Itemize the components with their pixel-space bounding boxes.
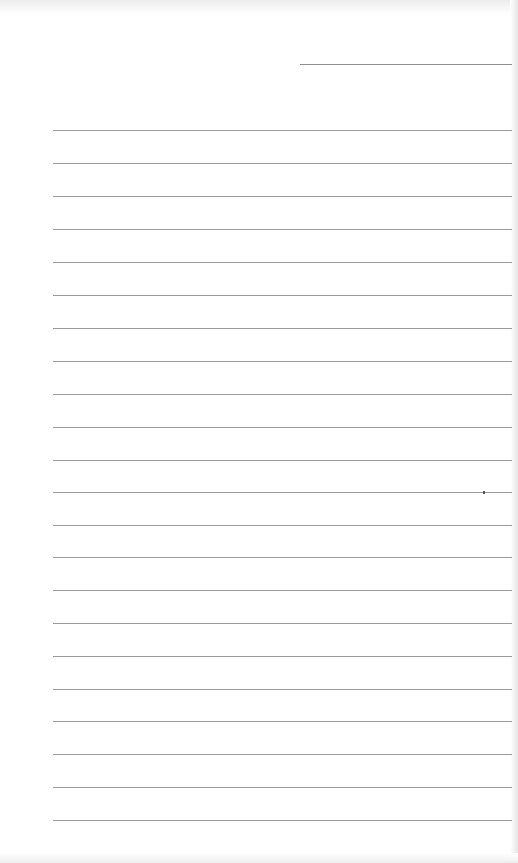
- ruled-line: [53, 361, 512, 362]
- header-line: [300, 64, 512, 65]
- paper-speck: [483, 491, 485, 494]
- ruled-line: [53, 394, 512, 395]
- ruled-line: [53, 787, 512, 788]
- ruled-line: [53, 295, 512, 296]
- ruled-line: [53, 427, 512, 428]
- ruled-line: [53, 130, 512, 131]
- ruled-line: [53, 689, 512, 690]
- ruled-line: [53, 754, 512, 755]
- ruled-line: [53, 623, 512, 624]
- ruled-line: [53, 460, 512, 461]
- ruled-line: [53, 492, 512, 493]
- scan-shadow-bottom: [0, 853, 518, 863]
- ruled-line: [53, 557, 512, 558]
- ruled-line: [53, 163, 512, 164]
- ruled-line: [53, 721, 512, 722]
- ruled-line: [53, 328, 512, 329]
- ruled-line: [53, 196, 512, 197]
- ruled-line: [53, 525, 512, 526]
- ruled-line: [53, 656, 512, 657]
- ruled-line: [53, 262, 512, 263]
- ruled-line: [53, 590, 512, 591]
- ruled-line: [53, 820, 512, 821]
- scan-shadow-top: [0, 0, 518, 14]
- ruled-line: [53, 229, 512, 230]
